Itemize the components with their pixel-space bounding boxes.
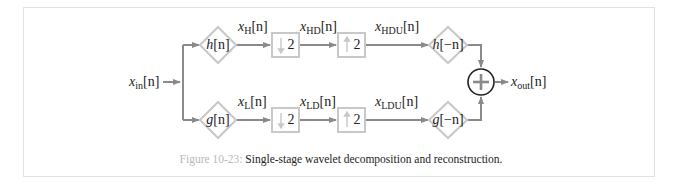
signal-label-xh: xH[n] [238,20,268,36]
filter-label-h: h[n] [200,38,236,52]
arrow-h-to-sum [466,45,481,67]
arrow-g-to-sum [466,97,481,120]
upsample-factor-top: 2 [351,38,363,52]
upsample-factor-bottom: 2 [351,113,363,127]
signal-label-xld: xLD[n] [300,95,336,111]
caption-text: Single-stage wavelet decomposition and r… [242,153,502,165]
signal-label-xldu: xLDU[n] [375,95,418,111]
input-signal-label: xin[n] [129,75,159,91]
output-signal-label: xout[n] [511,75,546,91]
downsample-factor-bottom: 2 [285,113,297,127]
figure-number: Figure 10-23: [180,153,243,165]
signal-label-xhdu: xHDU[n] [375,20,419,36]
filter-label-g-reversed: g[−n] [428,113,468,127]
signal-label-xhd: xHD[n] [300,20,337,36]
downsample-factor-top: 2 [285,38,297,52]
filter-label-g: g[n] [200,113,236,127]
signal-label-xl: xL[n] [238,95,267,111]
figure-caption: Figure 10-23: Single-stage wavelet decom… [0,153,682,165]
filter-label-h-reversed: h[−n] [428,38,468,52]
